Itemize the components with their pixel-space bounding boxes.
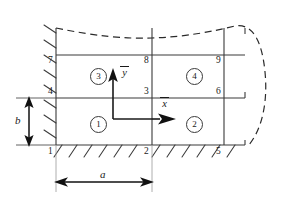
node-label-1: 1 [48,147,53,157]
node-label-5: 5 [216,147,221,157]
fem-mesh-figure: 1 2 3 4 5 6 7 8 9 1 2 3 4 y x b a [0,0,286,201]
node-label-4: 4 [48,87,53,97]
boundary-curve-path [56,26,266,146]
x-axis-arrow [113,114,176,125]
dimension-label-b: b [15,115,21,126]
element-label-4: 4 [186,68,203,85]
element-label-3: 3 [90,68,107,85]
y-axis-arrow [108,68,118,119]
node-label-3: 3 [144,87,149,97]
node-label-6: 6 [216,87,221,97]
x-axis-glyph: x [160,99,169,110]
node-label-9: 9 [216,56,221,66]
true-body-outline [56,26,266,146]
left-support-hatching [44,25,56,138]
x-axis-label: x [160,97,169,110]
diagram-canvas [0,0,286,201]
node-label-2: 2 [144,147,149,157]
y-axis-label: y [120,66,129,79]
y-axis-glyph: y [120,68,129,79]
dimension-label-a: a [100,169,106,180]
element-label-1: 1 [90,116,107,133]
element-label-2: 2 [186,116,203,133]
node-label-8: 8 [144,56,149,66]
node-label-7: 7 [48,56,53,66]
